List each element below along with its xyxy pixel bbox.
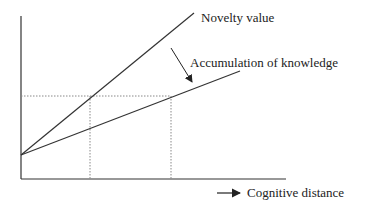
novelty-value-line [21,13,194,155]
diagram-canvas: Novelty value Accumulation of knowledge … [0,0,365,209]
knowledge-label: Accumulation of knowledge [190,55,338,70]
knowledge-line [21,71,240,155]
xaxis-label: Cognitive distance [247,185,344,200]
novelty-label: Novelty value [201,10,275,25]
knowledge-pointer-arrow [171,48,192,82]
